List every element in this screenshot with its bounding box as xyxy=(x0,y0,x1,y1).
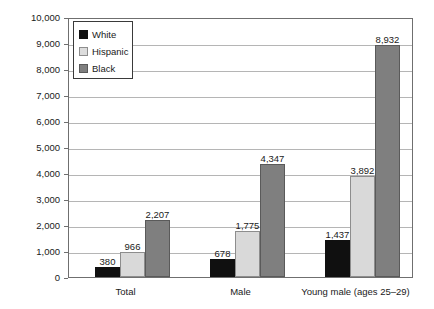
legend-item-label: White xyxy=(92,30,116,40)
y-axis-tick-label: 8,000 xyxy=(14,65,60,75)
legend-swatch-icon xyxy=(79,47,88,56)
gridline xyxy=(69,123,412,124)
legend-swatch-icon xyxy=(79,64,88,73)
bar xyxy=(350,176,375,277)
legend-item: Black xyxy=(79,60,132,77)
legend-swatch-icon xyxy=(79,30,88,39)
bar-chart-figure: Rate per 100,000 people in each group 10… xyxy=(0,0,434,309)
chart-title xyxy=(0,0,434,6)
y-axis-tick-label: 6,000 xyxy=(14,117,60,127)
legend-item-label: Black xyxy=(92,64,115,74)
y-axis-tick-label: 4,000 xyxy=(14,169,60,179)
gridline xyxy=(69,149,412,150)
chart-legend: WhiteHispanicBlack xyxy=(73,21,133,79)
bar-value-label: 4,347 xyxy=(253,153,293,164)
bar xyxy=(235,231,260,277)
y-axis-tick-label: 1,000 xyxy=(14,247,60,257)
bar xyxy=(375,45,400,277)
y-axis-tick-label: 7,000 xyxy=(14,91,60,101)
bar xyxy=(95,267,120,277)
bar-value-label: 2,207 xyxy=(138,209,178,220)
y-axis-tick-label: 9,000 xyxy=(14,39,60,49)
bar xyxy=(145,220,170,277)
y-axis-tick-label: 3,000 xyxy=(14,195,60,205)
y-axis-tick-mark xyxy=(64,278,68,279)
x-axis-category-label: Young male (ages 25–29) xyxy=(286,286,426,298)
bar-value-label: 8,932 xyxy=(368,34,408,45)
y-axis-tick-label: 10,000 xyxy=(14,13,60,23)
y-axis-tick-label: 5,000 xyxy=(14,143,60,153)
legend-item: White xyxy=(79,26,132,43)
bar xyxy=(210,259,235,277)
gridline xyxy=(69,97,412,98)
bar xyxy=(325,240,350,277)
legend-item-label: Hispanic xyxy=(92,47,128,57)
bar xyxy=(120,252,145,277)
y-axis-tick-label: 2,000 xyxy=(14,221,60,231)
bar xyxy=(260,164,285,277)
legend-item: Hispanic xyxy=(79,43,132,60)
y-axis-tick-label: 0 xyxy=(14,273,60,283)
